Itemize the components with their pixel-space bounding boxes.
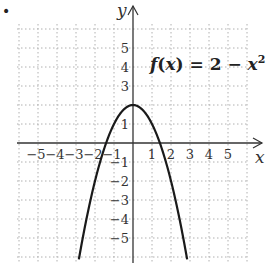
y-tick-label: 1 bbox=[121, 117, 129, 132]
y-tick-label: −4 bbox=[110, 212, 129, 227]
y-tick-label: −5 bbox=[110, 231, 129, 246]
y-tick-label: 3 bbox=[121, 79, 129, 94]
y-tick-label: 4 bbox=[121, 60, 129, 75]
bullet-marker: • bbox=[2, 3, 10, 19]
x-tick-label: 5 bbox=[224, 147, 232, 162]
function-label: f(x) = 2 − x2 bbox=[149, 53, 265, 74]
x-tick-label: 3 bbox=[186, 147, 194, 162]
y-tick-label: −2 bbox=[110, 174, 129, 189]
x-tick-label: −4 bbox=[45, 147, 64, 162]
x-tick-label: 4 bbox=[205, 147, 213, 162]
y-axis-label: y bbox=[116, 0, 127, 20]
y-tick-label: −1 bbox=[110, 155, 129, 170]
x-tick-label: 2 bbox=[167, 147, 175, 162]
x-tick-label: −5 bbox=[26, 147, 45, 162]
parabola-chart: • −5−4−3−2−1123455431−1−2−3−4−5 x y f(x)… bbox=[0, 0, 272, 263]
x-tick-label: −3 bbox=[64, 147, 83, 162]
x-tick-label: 1 bbox=[148, 147, 156, 162]
y-tick-label: 5 bbox=[121, 41, 129, 56]
y-tick-label: −3 bbox=[110, 193, 129, 208]
axes bbox=[17, 6, 262, 263]
x-axis-label: x bbox=[255, 147, 265, 167]
